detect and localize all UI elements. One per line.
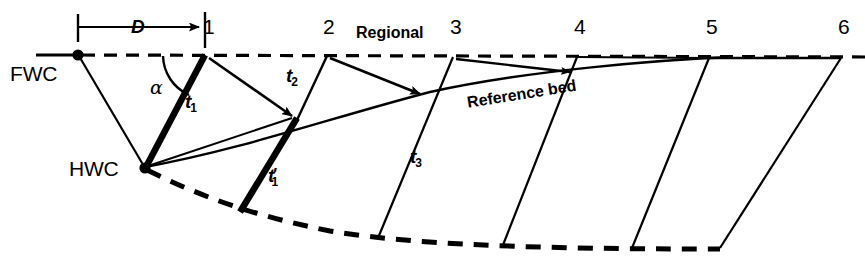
top-edge-4-5 xyxy=(577,57,709,58)
displacement-arrow-3 xyxy=(456,59,570,72)
displacement-label: D xyxy=(131,17,145,36)
growth-boundary-5 xyxy=(632,58,709,248)
fault-growth-diagram: D 1 2 3 4 5 6 Regional Reference bed FWC… xyxy=(0,0,865,265)
thickness-label-t1-prime: t'1 xyxy=(268,166,285,185)
t3-subscript: 3 xyxy=(415,156,422,170)
displacement-arrow-1 xyxy=(209,58,292,116)
growth-boundary-6 xyxy=(720,58,841,248)
regional-datum-dashed xyxy=(82,55,865,57)
marker-label-1: 1 xyxy=(203,16,215,37)
fwc-label: FWC xyxy=(10,63,57,84)
fwc-point-dot xyxy=(72,49,83,60)
regional-label: Regional xyxy=(356,25,424,41)
thickness-label-t3: t3 xyxy=(410,147,423,166)
hwc-label: HWC xyxy=(69,158,119,179)
hwc-point-dot xyxy=(139,162,150,173)
marker-label-4: 4 xyxy=(574,16,586,37)
thickness-label-t1: t1 xyxy=(185,92,198,111)
marker-label-2: 2 xyxy=(323,16,335,37)
alpha-angle-label: α xyxy=(150,78,163,97)
t1-subscript: 1 xyxy=(190,101,197,115)
marker-label-3: 3 xyxy=(450,16,462,37)
marker-label-6: 6 xyxy=(838,16,850,37)
t1p-subscript: 1 xyxy=(271,175,278,189)
diagram-canvas xyxy=(0,0,865,265)
growth-boundary-2-upper xyxy=(297,56,327,120)
displacement-arrow-2 xyxy=(330,58,420,94)
fwc-hwc-line xyxy=(79,56,145,168)
t2-subscript: 2 xyxy=(291,75,298,89)
thickness-label-t2: t2 xyxy=(286,66,299,85)
marker-label-5: 5 xyxy=(706,16,718,37)
